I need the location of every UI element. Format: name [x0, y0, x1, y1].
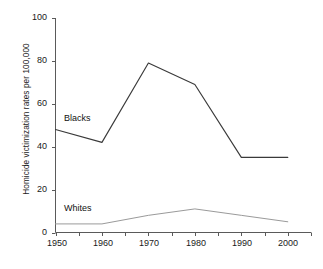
homicide-victimization-line-chart: Homicide victimization rates per 100,000… [0, 0, 323, 269]
x-axis-ticks [57, 233, 312, 237]
y-axis-ticks [52, 19, 56, 234]
series-line-whites [56, 209, 288, 224]
series-line-blacks [56, 63, 288, 157]
plot-area [0, 0, 323, 269]
